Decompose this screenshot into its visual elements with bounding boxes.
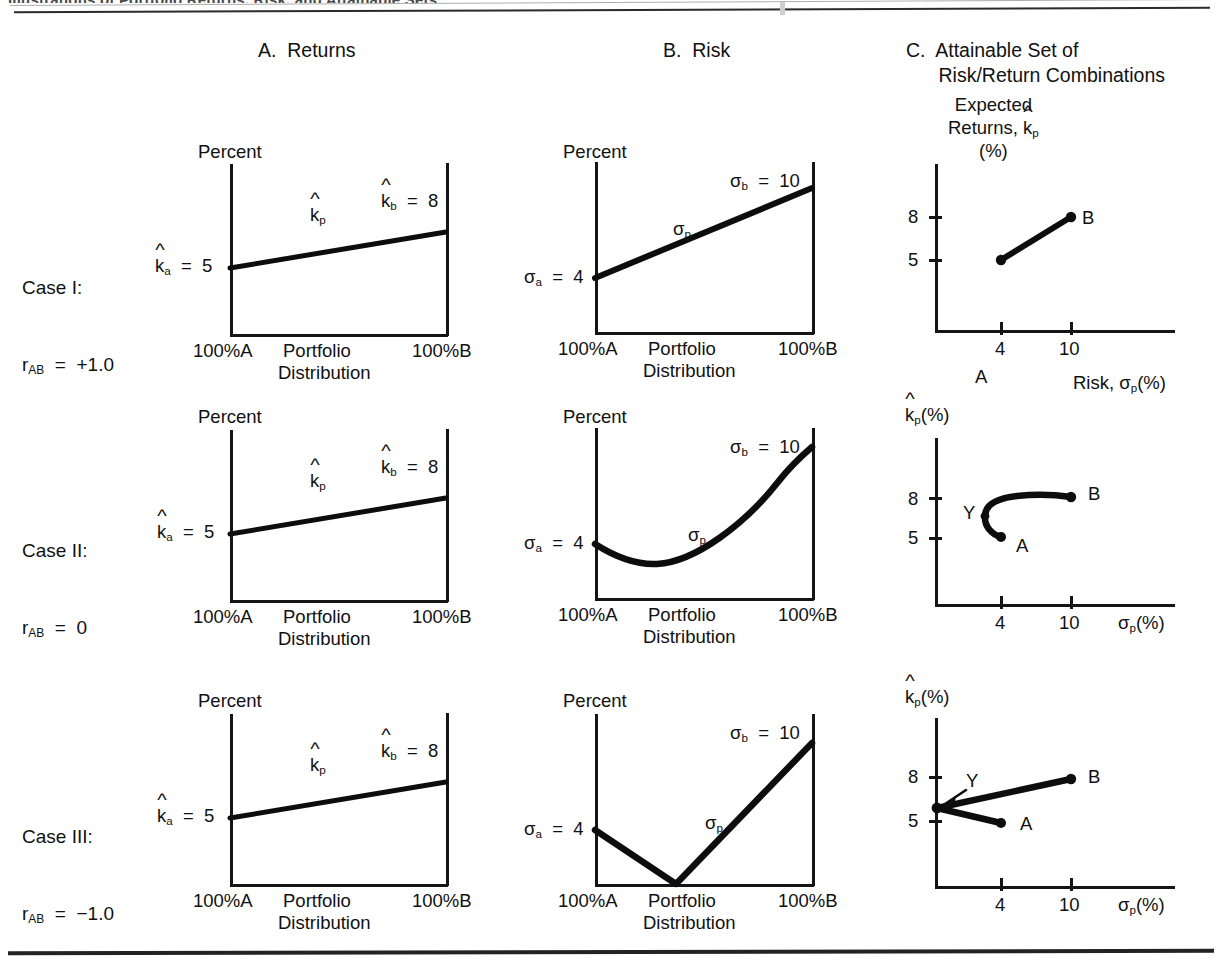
- r3-panelA-kp-line: [230, 782, 446, 818]
- r1-panelC-plot: [935, 164, 1180, 336]
- r2-panelC-plot: [935, 438, 1180, 613]
- r2-panelB-sigma-ucurve: [595, 447, 812, 564]
- r2-panelA-left-value: ka = 5: [157, 521, 214, 543]
- r1-panelA-x-label-l1: Portfolio: [283, 340, 351, 362]
- r2-panelC-xlabel-4: 4: [995, 612, 1005, 634]
- figure-canvas: Illustrations of Portfolio Returns, Risk…: [0, 0, 1223, 971]
- r2-panelB-left-value: σa = 4: [524, 532, 584, 554]
- r3-panelB-x-label-l2: Distribution: [643, 912, 736, 934]
- case-label-row1: Case I: rAB = +1.0: [22, 224, 114, 430]
- r1-panelA-curve-label: kp: [310, 204, 326, 226]
- r3-panelB-left-value: σa = 4: [524, 818, 584, 840]
- r3-panelC-xlabel-10: 10: [1059, 894, 1080, 916]
- r3-panelA-x-tick-right: 100%B: [412, 890, 472, 912]
- r3-panelA-x-label-l1: Portfolio: [283, 890, 351, 912]
- r3-panelB-x-tick-left: 100%A: [558, 890, 618, 912]
- r1-panelA-x-tick-right: 100%B: [412, 340, 472, 362]
- top-rule: [14, 7, 1210, 14]
- r3-panelB-x-label-l1: Portfolio: [648, 890, 716, 912]
- r1-panelA-y-label: Percent: [198, 141, 262, 163]
- r1-panelC-point-A: [996, 255, 1006, 265]
- panel-c-y-axis-title: Expected Returns, kp (%): [948, 94, 1039, 163]
- case-corr-row3: rAB = −1.0: [22, 901, 114, 928]
- r1-panelC-point-B: [1066, 212, 1076, 222]
- r3-panelA-curve-label: kp: [310, 754, 326, 776]
- r2-panelA-curve-label: kp: [310, 470, 326, 492]
- r3-panelC-x-axis-title: σp(%): [1118, 894, 1165, 916]
- r3-panelC-point-Y: [932, 803, 943, 814]
- r3-panelC-point-B-label: B: [1088, 766, 1100, 788]
- case-label-row2: Case II: rAB = 0: [22, 487, 87, 693]
- case-label-row3: Case III: rAB = −1.0: [22, 773, 114, 971]
- case-name-row1: Case I:: [22, 275, 114, 301]
- r3-panelC-point-A: [996, 818, 1006, 828]
- r2-panelC-point-B: [1066, 492, 1076, 502]
- r3-panelB-y-label: Percent: [563, 690, 627, 712]
- r1-panelA-right-value: kb = 8: [381, 190, 438, 212]
- r2-panelC-xlabel-10: 10: [1059, 612, 1080, 634]
- r3-panelB-right-value: σb = 10: [730, 722, 800, 744]
- r1-panelA-kp-line: [230, 232, 446, 268]
- r1-panelB-x-tick-left: 100%A: [558, 338, 618, 360]
- r3-panelA-left-value: ka = 5: [157, 805, 214, 827]
- r3-panelC-line-Y-to-B: [937, 779, 1071, 808]
- r2-panelC-point-A: [996, 532, 1006, 542]
- r2-panelC-point-A-label: A: [1016, 535, 1028, 557]
- r2-panelA-x-tick-right: 100%B: [412, 606, 472, 628]
- r3-panelA-x-label-l2: Distribution: [278, 912, 371, 934]
- r1-panelC-attainable-line: [1001, 217, 1071, 260]
- r2-panelB-x-label-l1: Portfolio: [648, 604, 716, 626]
- r1-panelB-curve-label: σp: [673, 218, 691, 240]
- r1-panelA-x-tick-left: 100%A: [193, 340, 253, 362]
- r1-panelB-sigma-line: [595, 188, 812, 278]
- case-corr-row2: rAB = 0: [22, 615, 87, 642]
- r1-panelC-xlabel-10: 10: [1059, 338, 1080, 360]
- column-heading-b: B. Risk: [663, 38, 730, 63]
- column-heading-a: A. Returns: [258, 38, 356, 63]
- r1-panelC-ylabel-8: 8: [908, 206, 918, 228]
- r1-panelC-xlabel-4: 4: [995, 338, 1005, 360]
- r2-panelB-curve-label: σp: [688, 524, 706, 546]
- bottom-rule: [8, 949, 1214, 956]
- r2-panelB-x-tick-left: 100%A: [558, 604, 618, 626]
- r2-panelA-x-tick-left: 100%A: [193, 606, 253, 628]
- r3-panelC-line-Y-to-A: [937, 808, 1001, 823]
- page-tick-mark: [780, 2, 785, 15]
- r2-panelA-x-label-l2: Distribution: [278, 628, 371, 650]
- r3-panelB-curve-label: σp: [705, 812, 723, 834]
- r1-panelB-x-tick-right: 100%B: [778, 338, 838, 360]
- r1-panelC-point-B-label: B: [1082, 207, 1094, 229]
- r1-panelC-x-axis-title: Risk, σp(%): [1073, 372, 1166, 394]
- r3-panelC-point-A-label: A: [1020, 813, 1032, 835]
- panel-c-y-axis-title-line2: Returns, kp: [948, 117, 1039, 140]
- r1-panelC-point-A-label: A: [975, 366, 987, 388]
- r2-panelB-right-value: σb = 10: [730, 436, 800, 458]
- r3-panelC-y-axis-title: kp(%): [905, 686, 950, 708]
- panel-c-y-axis-title-line3: (%): [948, 140, 1039, 163]
- r2-panelC-point-Y-label: Y: [963, 502, 975, 524]
- r1-panelB-x-label-l2: Distribution: [643, 360, 736, 382]
- column-heading-c: C. Attainable Set of Risk/Return Combina…: [906, 38, 1165, 88]
- r1-panelA-x-label-l2: Distribution: [278, 362, 371, 384]
- case-corr-row1: rAB = +1.0: [22, 352, 114, 379]
- r3-panelA-x-tick-left: 100%A: [193, 890, 253, 912]
- r3-panelC-point-Y-label: Y: [966, 770, 978, 792]
- case-name-row2: Case II:: [22, 538, 87, 564]
- r3-panelC-plot: [935, 718, 1180, 894]
- r3-panelC-ylabel-8: 8: [908, 766, 918, 788]
- r1-panelB-y-label: Percent: [563, 141, 627, 163]
- r2-panelB-y-label: Percent: [563, 406, 627, 428]
- r3-panelA-right-value: kb = 8: [381, 740, 438, 762]
- r3-panelB-sigma-vshape: [595, 743, 812, 884]
- r1-panelB-x-label-l1: Portfolio: [648, 338, 716, 360]
- case-name-row3: Case III:: [22, 824, 114, 850]
- r2-panelC-x-axis-title: σp(%): [1118, 612, 1165, 634]
- r2-panelC-point-Y: [981, 512, 990, 521]
- r2-panelB-x-label-l2: Distribution: [643, 626, 736, 648]
- r2-panelA-kp-line: [230, 498, 446, 534]
- r3-panelC-point-B: [1066, 774, 1076, 784]
- r2-panelC-attainable-curve: [985, 495, 1071, 537]
- r2-panelA-x-label-l1: Portfolio: [283, 606, 351, 628]
- r1-panelB-left-value: σa = 4: [524, 266, 584, 288]
- r3-panelC-xlabel-4: 4: [995, 894, 1005, 916]
